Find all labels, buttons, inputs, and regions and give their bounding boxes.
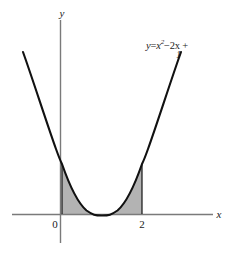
parabola-plot: x y 0 2 — [0, 0, 243, 262]
x-tick-label-2: 2 — [139, 218, 145, 230]
x-tick-label-0: 0 — [52, 218, 58, 230]
y-axis-label: y — [59, 7, 65, 19]
shaded-area-region — [62, 164, 142, 216]
parabola-curve — [23, 52, 181, 216]
equation-wrapped-term: 1 — [176, 49, 181, 60]
equation-annotation: y=x2−2x + — [146, 38, 188, 51]
x-axis-label: x — [216, 208, 222, 220]
figure-container: x y 0 2 y=x2−2x + 1 — [0, 0, 243, 262]
